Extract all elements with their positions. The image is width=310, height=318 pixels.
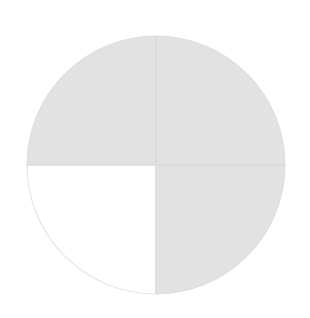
pie-slice-bottom-left[interactable] xyxy=(27,165,156,294)
pie-slice-bottom-right[interactable] xyxy=(156,165,285,294)
pie-slice-top-left[interactable] xyxy=(27,36,156,165)
pie-slice-top-right[interactable] xyxy=(156,36,285,165)
pie-chart-container xyxy=(0,0,310,318)
pie-chart-svg xyxy=(0,0,310,318)
